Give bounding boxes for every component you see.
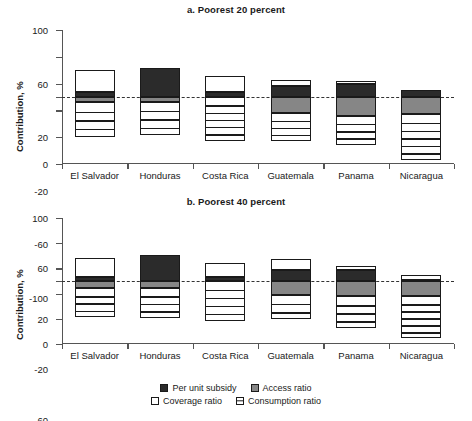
bar-segment-coverage xyxy=(75,258,115,277)
bar-segment-coverage xyxy=(75,70,115,91)
panel-a-y-tick-label: 20 xyxy=(37,132,48,143)
legend-swatch-coverage-icon xyxy=(151,397,159,405)
bar-segment-access xyxy=(336,281,376,296)
panel-a-x-tick xyxy=(258,164,259,169)
x-category-label: El Salvador xyxy=(70,350,119,361)
consumption-hatch xyxy=(206,98,244,140)
bar-el-salvador[interactable] xyxy=(75,30,115,164)
panel-a-title: a. Poorest 20 percent xyxy=(0,4,472,15)
x-category-label: Panama xyxy=(338,170,373,181)
consumption-hatch xyxy=(272,114,310,139)
panel-b-x-tick xyxy=(389,344,390,349)
bar-segment-consumption xyxy=(140,288,180,318)
bar-segment-access xyxy=(271,281,311,295)
panel-a-x-tick xyxy=(323,164,324,169)
panel-a-y-tick: -20 xyxy=(56,110,62,111)
x-category-label: Guatemala xyxy=(267,350,313,361)
bar-segment-consumption xyxy=(75,102,115,136)
x-category-label: Panama xyxy=(338,350,373,361)
panel-a-x-tick xyxy=(62,164,63,169)
panel-b-zero-line xyxy=(62,281,454,282)
bar-segment-access xyxy=(271,97,311,113)
legend-label: Consumption ratio xyxy=(248,396,321,406)
bar-segment-subsidy xyxy=(271,270,311,281)
panel-b-y-axis-label: Contribution, % xyxy=(14,269,25,340)
bar-segment-consumption xyxy=(271,113,311,140)
panel-b-y-tick-label: -60 xyxy=(34,414,48,421)
bar-segment-coverage xyxy=(336,81,376,84)
panel-b-y-tick-label: 20 xyxy=(37,313,48,324)
panel-b-plot-area: 10060200-20-60-100 xyxy=(62,218,454,344)
bar-panama[interactable] xyxy=(336,218,376,344)
bar-costa-rica[interactable] xyxy=(205,218,245,344)
legend-label: Access ratio xyxy=(263,383,312,393)
legend-label: Coverage ratio xyxy=(163,396,222,406)
bar-el-salvador[interactable] xyxy=(75,218,115,344)
bar-segment-consumption xyxy=(140,102,180,136)
bar-costa-rica[interactable] xyxy=(205,30,245,164)
bar-honduras[interactable] xyxy=(140,30,180,164)
consumption-hatch xyxy=(76,289,114,316)
bar-segment-subsidy xyxy=(401,90,441,97)
panel-a-x-tick xyxy=(193,164,194,169)
bar-honduras[interactable] xyxy=(140,218,180,344)
panel-b-y-tick: -20 xyxy=(56,294,62,295)
panel-a-y-tick-label: 60 xyxy=(37,78,48,89)
bar-nicaragua[interactable] xyxy=(401,30,441,164)
panel-a-x-tick xyxy=(127,164,128,169)
legend-item-consumption[interactable]: Consumption ratio xyxy=(236,396,321,406)
bar-segment-access xyxy=(401,97,441,114)
consumption-hatch xyxy=(76,103,114,135)
bar-segment-access xyxy=(401,281,441,296)
bar-segment-subsidy xyxy=(336,84,376,97)
bar-segment-coverage xyxy=(271,259,311,270)
consumption-hatch xyxy=(337,117,375,144)
bar-segment-consumption xyxy=(401,296,441,338)
bar-segment-subsidy xyxy=(140,68,180,97)
legend-swatch-access-icon xyxy=(251,384,259,392)
panel-b-title: b. Poorest 40 percent xyxy=(0,196,472,207)
panel-b-y-tick-label: 100 xyxy=(32,213,48,224)
bar-segment-access xyxy=(140,281,180,288)
panel-a-x-tick xyxy=(389,164,390,169)
bar-guatemala[interactable] xyxy=(271,30,311,164)
panel-b-y-tick-label: -20 xyxy=(34,364,48,375)
legend-label: Per unit subsidy xyxy=(172,383,236,393)
bar-segment-access xyxy=(75,281,115,288)
legend-item-access[interactable]: Access ratio xyxy=(251,383,312,393)
bar-panama[interactable] xyxy=(336,30,376,164)
bar-nicaragua[interactable] xyxy=(401,218,441,344)
x-category-label: Honduras xyxy=(139,170,180,181)
bar-segment-consumption xyxy=(205,97,245,141)
bar-segment-coverage xyxy=(205,263,245,277)
panel-b-x-tick xyxy=(193,344,194,349)
panel-a-x-tick xyxy=(454,164,455,169)
panel-b-y-tick: 60 xyxy=(56,243,62,244)
bar-segment-coverage xyxy=(271,80,311,87)
x-category-label: Nicaragua xyxy=(400,350,443,361)
bar-segment-coverage xyxy=(401,275,441,280)
legend-swatch-subsidy-icon xyxy=(160,384,168,392)
consumption-hatch xyxy=(402,297,440,337)
panel-b-y-tick-label: 0 xyxy=(43,339,48,350)
panel-b-y-tick: -60 xyxy=(56,319,62,320)
bar-segment-consumption xyxy=(205,281,245,321)
panel-b-y-tick: 100 xyxy=(56,218,62,219)
panel-b-y-tick: 20 xyxy=(56,268,62,269)
consumption-hatch xyxy=(141,289,179,317)
legend-item-subsidy[interactable]: Per unit subsidy xyxy=(160,383,236,393)
bar-segment-consumption xyxy=(75,288,115,317)
panel-b-x-tick xyxy=(258,344,259,349)
panel-b-y-tick-label: 60 xyxy=(37,263,48,274)
consumption-hatch xyxy=(272,296,310,319)
legend-item-coverage[interactable]: Coverage ratio xyxy=(151,396,222,406)
bar-segment-coverage xyxy=(205,76,245,92)
bar-segment-access xyxy=(336,97,376,116)
bar-segment-coverage xyxy=(336,266,376,270)
bar-segment-consumption xyxy=(401,114,441,160)
bar-guatemala[interactable] xyxy=(271,218,311,344)
x-category-label: Costa Rica xyxy=(202,170,248,181)
x-category-label: Guatemala xyxy=(267,170,313,181)
bar-segment-consumption xyxy=(336,296,376,328)
bar-segment-subsidy xyxy=(140,255,180,281)
